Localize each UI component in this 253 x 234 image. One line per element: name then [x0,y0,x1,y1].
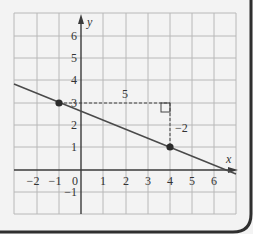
svg-text:5: 5 [189,174,195,188]
svg-text:2: 2 [123,174,129,188]
right-angle-marker [161,103,170,112]
svg-text:6: 6 [211,174,217,188]
svg-text:0: 0 [72,174,78,188]
x-tick-labels: −2 −1 0 1 2 3 4 5 6 [27,174,217,188]
point-4-1 [166,143,173,150]
diagram-frame: y x 6 5 4 3 2 1 −1 −2 −1 0 1 2 3 4 5 6 5… [0,0,253,234]
svg-text:−2: −2 [27,174,40,188]
rise-label: −2 [175,121,188,135]
y-axis-arrow-icon [78,14,84,24]
point-neg1-3 [55,99,62,106]
svg-text:1: 1 [100,174,106,188]
x-axis-label: x [225,152,232,166]
svg-text:1: 1 [71,140,77,154]
run-label: 5 [122,87,128,101]
svg-text:−1: −1 [49,174,62,188]
svg-text:6: 6 [71,29,77,43]
svg-text:4: 4 [71,73,77,87]
svg-text:2: 2 [71,118,77,132]
svg-text:3: 3 [145,174,151,188]
svg-text:4: 4 [167,174,173,188]
svg-text:5: 5 [71,51,77,65]
y-axis-label: y [86,15,93,29]
